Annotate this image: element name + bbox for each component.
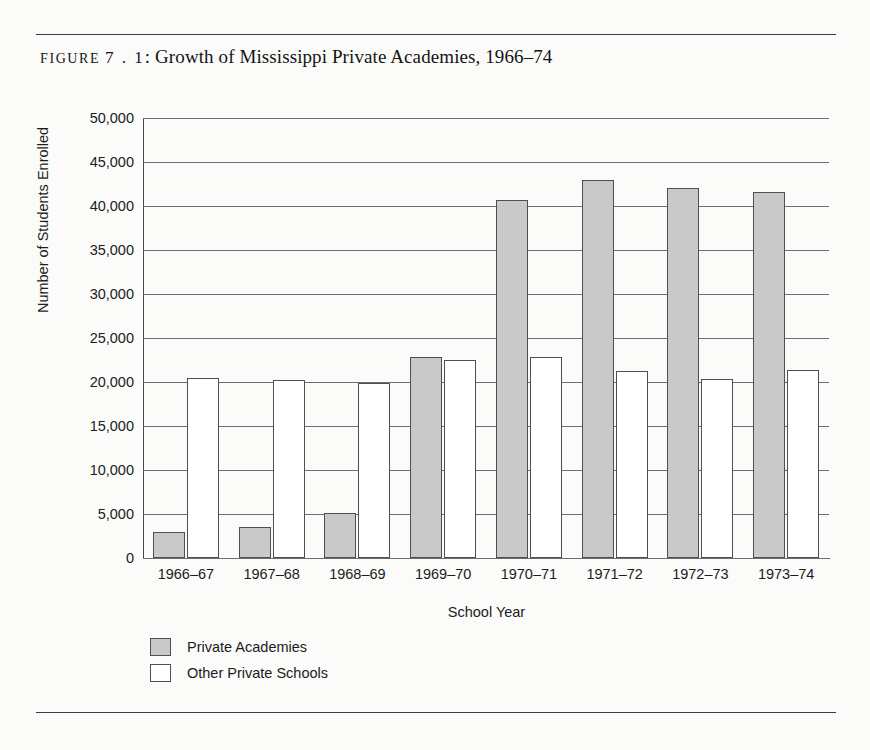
- bar-academies: [153, 532, 185, 558]
- y-axis-tick-label: 45,000: [62, 154, 134, 170]
- legend-label: Other Private Schools: [187, 665, 328, 681]
- bar-other: [701, 379, 733, 558]
- y-axis-tick-label: 0: [62, 550, 134, 566]
- bar-group: [486, 118, 572, 558]
- bar-group: [743, 118, 829, 558]
- x-axis-tick-label: 1970–71: [486, 566, 572, 582]
- figure-caption: FIGURE 7 . 1: Growth of Mississippi Priv…: [40, 46, 552, 68]
- figure-label-word: FIGURE: [40, 51, 100, 66]
- bar-group: [315, 118, 401, 558]
- bar-academies: [667, 188, 699, 558]
- bar-academies: [582, 180, 614, 558]
- y-axis-tick-label: 40,000: [62, 198, 134, 214]
- y-axis-tick-label: 50,000: [62, 110, 134, 126]
- bar-other: [358, 383, 390, 558]
- bar-other: [273, 380, 305, 558]
- bar-academies: [753, 192, 785, 558]
- bar-other: [444, 360, 476, 558]
- bar-other: [616, 371, 648, 558]
- y-axis-tick-label: 25,000: [62, 330, 134, 346]
- bar-group: [572, 118, 658, 558]
- bar-group: [143, 118, 229, 558]
- bar-other: [187, 378, 219, 558]
- figure-page: FIGURE 7 . 1: Growth of Mississippi Priv…: [0, 0, 870, 750]
- legend-item: Other Private Schools: [150, 660, 328, 686]
- bar-other: [530, 357, 562, 558]
- chart-legend: Private AcademiesOther Private Schools: [150, 634, 328, 686]
- legend-item: Private Academies: [150, 634, 328, 660]
- legend-swatch-other: [150, 664, 171, 682]
- x-axis-title: School Year: [143, 604, 830, 620]
- bar-academies: [324, 513, 356, 558]
- x-axis-tick-label: 1969–70: [400, 566, 486, 582]
- bar-academies: [410, 357, 442, 558]
- figure-title-text: Growth of Mississippi Private Academies,…: [155, 46, 552, 67]
- figure-number: 7 . 1: [105, 48, 145, 67]
- y-axis-tick-label: 30,000: [62, 286, 134, 302]
- chart-plot-area: [143, 118, 829, 558]
- x-axis-tick-label: 1972–73: [658, 566, 744, 582]
- bar-group: [229, 118, 315, 558]
- y-axis-tick-label: 15,000: [62, 418, 134, 434]
- y-axis-tick-label: 5,000: [62, 506, 134, 522]
- figure-caption-separator: :: [145, 46, 150, 67]
- bar-academies: [239, 527, 271, 558]
- bar-group: [400, 118, 486, 558]
- y-axis-tick-label: 35,000: [62, 242, 134, 258]
- bar-other: [787, 370, 819, 558]
- figure-top-rule: [36, 34, 836, 35]
- gridline: [143, 558, 829, 559]
- y-axis-tick-labels: 50,00045,00040,00035,00030,00025,00020,0…: [58, 118, 134, 558]
- y-axis-tick-label: 10,000: [62, 462, 134, 478]
- x-axis-tick-label: 1966–67: [143, 566, 229, 582]
- x-axis-tick-label: 1971–72: [572, 566, 658, 582]
- legend-label: Private Academies: [187, 639, 307, 655]
- x-axis-tick-label: 1973–74: [743, 566, 829, 582]
- x-axis-tick-label: 1967–68: [229, 566, 315, 582]
- figure-bottom-rule: [36, 712, 836, 713]
- y-axis-tick-label: 20,000: [62, 374, 134, 390]
- y-axis-title: Number of Students Enrolled: [35, 90, 51, 350]
- bar-academies: [496, 200, 528, 558]
- legend-swatch-academies: [150, 638, 171, 656]
- x-axis-tick-label: 1968–69: [315, 566, 401, 582]
- bar-group: [658, 118, 744, 558]
